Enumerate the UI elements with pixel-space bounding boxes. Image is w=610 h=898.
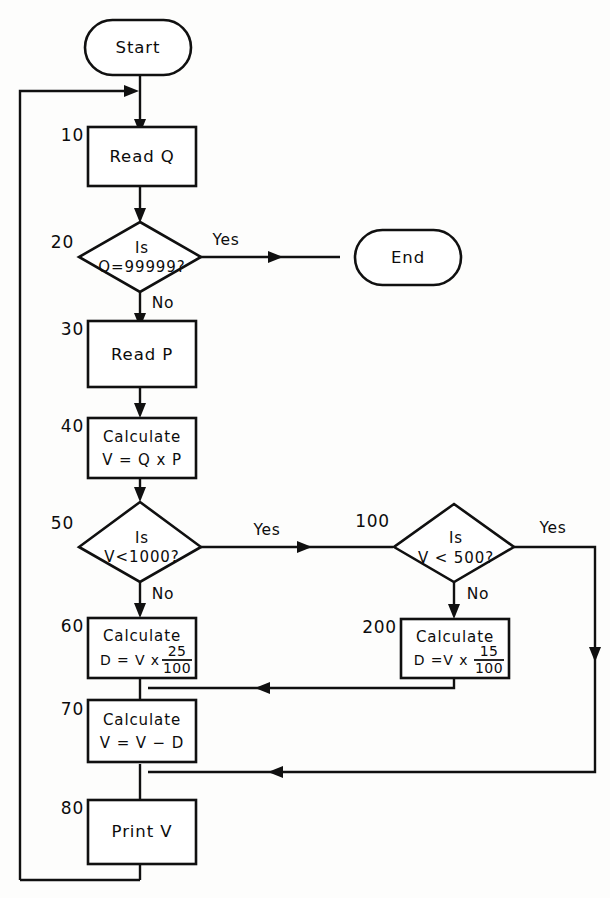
- node-decision-100-line2: V < 500?: [418, 549, 494, 567]
- step-number-200: 200: [362, 617, 397, 637]
- edge-label-no-from-20: No: [152, 294, 174, 312]
- node-print-v-label: Print V: [112, 822, 173, 841]
- node-start-label: Start: [116, 38, 161, 57]
- flowchart-canvas: Start 10 Read Q 20 Is Q=99999? Yes No En…: [0, 0, 610, 898]
- arrow-decision-100-yes-left: [268, 766, 283, 778]
- step-number-70: 70: [61, 699, 84, 719]
- arrow-decision-100-yes-down: [589, 647, 601, 662]
- node-decision-50-line1: Is: [135, 529, 149, 547]
- step-number-60: 60: [61, 616, 84, 636]
- arrow-read-p-to-calc-v: [134, 403, 146, 418]
- node-read-q-label: Read Q: [109, 147, 174, 166]
- node-calc-v-minus-d-line2: V = V − D: [100, 734, 184, 752]
- node-calc-v-line2: V = Q x P: [102, 451, 182, 469]
- node-decision-50-line2: V<1000?: [104, 548, 179, 566]
- step-number-10: 10: [61, 125, 84, 145]
- arrow-decision-100-no: [448, 604, 460, 619]
- arrow-decision-20-yes: [268, 251, 283, 263]
- node-calc-d-25-line1: Calculate: [103, 627, 181, 645]
- node-calc-d-15-line2: D =V x: [414, 652, 469, 668]
- edge-label-yes-from-100: Yes: [539, 519, 567, 537]
- step-number-40: 40: [61, 416, 84, 436]
- figure-caption: [18, 889, 578, 898]
- node-calc-v-minus-d-line1: Calculate: [103, 711, 181, 729]
- edge-label-no-from-100: No: [467, 585, 489, 603]
- connector-calc-d-15-to-trunk: [148, 678, 454, 688]
- arrow-decision-50-no: [134, 603, 146, 618]
- node-decision-20-line2: Q=99999?: [98, 258, 185, 276]
- node-calc-d-25-line2: D = V x: [100, 652, 160, 668]
- node-calc-d-25-denominator: 100: [163, 660, 191, 676]
- node-decision-100-line1: Is: [449, 529, 463, 547]
- edge-label-yes-from-20: Yes: [212, 231, 240, 249]
- step-number-80: 80: [61, 798, 84, 818]
- edge-label-yes-from-50: Yes: [253, 521, 281, 539]
- step-number-20: 20: [51, 232, 74, 252]
- node-end-label: End: [391, 248, 425, 267]
- arrow-loop-back: [124, 85, 139, 97]
- node-read-p-label: Read P: [111, 345, 173, 364]
- node-calc-v-minus-d: [88, 700, 196, 762]
- arrow-decision-50-yes: [297, 541, 312, 553]
- connector-decision-100-yes-rail: [148, 547, 595, 772]
- node-calc-v-line1: Calculate: [103, 428, 181, 446]
- arrow-calc-d-15-to-trunk: [255, 682, 270, 694]
- step-number-50: 50: [51, 513, 74, 533]
- node-decision-20-line1: Is: [135, 239, 149, 257]
- node-calc-d-25-numerator: 25: [168, 643, 187, 659]
- step-number-30: 30: [61, 319, 84, 339]
- step-number-100: 100: [355, 511, 390, 531]
- arrow-calc-v-to-decision-50: [134, 487, 146, 502]
- node-calc-d-15-denominator: 100: [475, 660, 503, 676]
- node-calc-d-15-numerator: 15: [480, 643, 499, 659]
- flowchart-page: Start 10 Read Q 20 Is Q=99999? Yes No En…: [0, 0, 610, 898]
- edge-label-no-from-50: No: [152, 585, 174, 603]
